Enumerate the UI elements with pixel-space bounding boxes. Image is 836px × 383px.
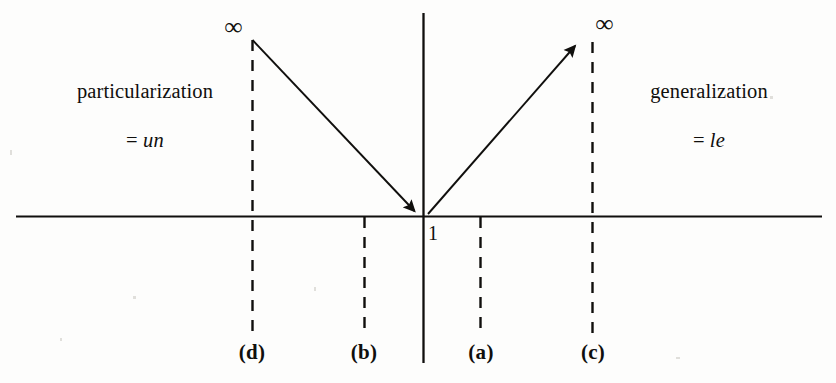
particularization-equation: = un	[126, 130, 164, 151]
infinity-symbol-right: ∞	[596, 11, 613, 36]
particularization-arrow	[253, 40, 415, 211]
diagram-vector-layer	[0, 0, 836, 383]
generalization-arrow	[428, 46, 575, 214]
origin-value-label: 1	[428, 223, 438, 243]
tick-label-a: (a)	[468, 342, 493, 363]
generalization-equation: = le	[693, 130, 725, 151]
particularization-label: particularization	[77, 81, 213, 102]
term-le: le	[710, 129, 725, 151]
tick-label-c: (c)	[581, 342, 605, 363]
tick-label-d: (d)	[239, 342, 266, 363]
tick-label-b: (b)	[351, 342, 378, 363]
term-un: un	[143, 129, 164, 151]
generalization-label: generalization	[650, 81, 768, 102]
equals-sign-left: =	[126, 129, 138, 151]
equals-sign-right: =	[693, 129, 705, 151]
diagram-canvas: ∞ ∞ particularization = un generalizatio…	[0, 0, 836, 383]
infinity-symbol-left: ∞	[225, 14, 242, 39]
